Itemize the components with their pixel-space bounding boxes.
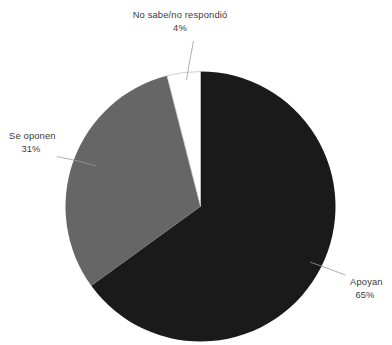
- label-apoyan-percent: 65%: [355, 289, 374, 300]
- pie-chart: No sabe/no respondió 4% Se oponen 31% Ap…: [0, 0, 392, 345]
- pie-chart-canvas: No sabe/no respondió 4% Se oponen 31% Ap…: [0, 0, 392, 345]
- label-no-sabe-no-respondio-name: No sabe/no respondió: [133, 9, 228, 20]
- label-apoyan-name: Apoyan: [350, 276, 383, 287]
- label-se-oponen-percent: 31%: [21, 143, 40, 154]
- label-se-oponen-name: Se oponen: [9, 130, 56, 141]
- label-no-sabe-no-respondio-percent: 4%: [173, 22, 187, 33]
